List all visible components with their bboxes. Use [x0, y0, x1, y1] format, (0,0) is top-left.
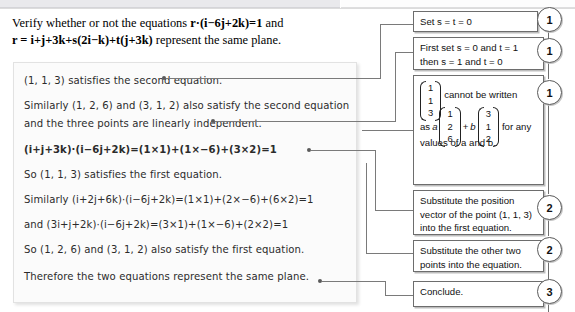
solution-line-6: Similarly (i+2j+6k)·(i−6j+2k)=(1×1)+(2×−…	[24, 194, 314, 205]
page-top-strip-right	[341, 0, 575, 8]
leader-h-6a	[322, 281, 385, 282]
leader-v-2	[395, 52, 396, 122]
question-line1-prefix: Verify whether or not the equations	[12, 16, 190, 30]
leader-h-1b	[380, 24, 413, 25]
leader-h-4b	[375, 210, 413, 211]
page-top-rule	[0, 8, 575, 9]
leader-h-6b	[385, 295, 413, 296]
vec3-row-1: 3	[486, 108, 491, 121]
worked-example-page: Verify whether or not the equations r·(i…	[0, 0, 575, 312]
spine-seg-5	[548, 259, 549, 279]
step-badge-5: 2	[537, 237, 562, 262]
step-badge-2: 1	[537, 38, 562, 63]
leader-v-4	[375, 150, 376, 210]
vec1-row-2: 1	[428, 95, 433, 108]
question-text: Verify whether or not the equations r·(i…	[12, 15, 362, 49]
step-badge-4: 2	[537, 195, 562, 220]
column-vector-113: 1 1 3	[420, 81, 441, 121]
step-badge-1: 1	[537, 7, 562, 32]
step-badge-1-label: 1	[546, 14, 552, 26]
comment-2-line-1: First set s = 0 and t = 1	[420, 41, 537, 55]
comment-box-first-set: First set s = 0 and t = 1 then s = 1 and…	[413, 37, 544, 70]
comment-3-for-any: for any	[502, 120, 531, 134]
comment-3-as-label: as	[420, 120, 430, 134]
comment-1-line-1: Set s = t = 0	[420, 16, 472, 27]
comment-6-line-1: Conclude.	[420, 285, 537, 299]
leader-h-3	[362, 130, 413, 131]
comment-box-substitute-position-vector: Substitute the position vector of the po…	[413, 190, 544, 235]
comment-box-conclude: Conclude.	[413, 281, 544, 307]
step-badge-4-label: 2	[546, 202, 552, 214]
step-badge-3-label: 1	[546, 87, 552, 99]
solution-panel: (1, 1, 3) satisfies the second equation.…	[13, 62, 357, 303]
solution-line-9: Therefore the two equations represent th…	[24, 271, 309, 282]
step-badge-6-label: 3	[546, 286, 552, 298]
solution-line-5: So (1, 1, 3) satisfies the first equatio…	[24, 169, 222, 180]
step-badge-2-label: 1	[546, 45, 552, 57]
spine-seg-3	[548, 102, 549, 194]
step-badge-5-label: 2	[546, 244, 552, 256]
vec1-row-1: 1	[428, 82, 433, 95]
solution-line-3: and the three points are linearly indepe…	[24, 118, 262, 129]
comment-3-coef-b: b	[470, 120, 475, 134]
comment-box-substitute-other-points: Substitute the other two points into the…	[413, 240, 544, 272]
solution-line-8: So (1, 2, 6) and (3, 1, 2) also satisfy …	[24, 244, 304, 255]
comment-box-set-s-t: Set s = t = 0	[413, 11, 538, 32]
question-line2-suffix: represent the same plane.	[153, 33, 281, 47]
step-badge-3: 1	[537, 80, 562, 105]
solution-line-4: (i+j+3k)·(i−6j+2k)=(1×1)+(1×−6)+(3×2)=1	[24, 144, 277, 155]
leader-v-6	[385, 281, 386, 295]
leader-h-2a	[215, 121, 395, 122]
question-line1-suffix: and	[262, 16, 283, 30]
comment-3-cannot-be-written: cannot be written	[444, 88, 517, 102]
comment-5-line-2: points into the equation.	[420, 258, 537, 272]
vec2-row-1: 1	[447, 108, 452, 121]
comment-box-linear-independence: 1 1 3 cannot be written as a 1 2 6 +	[413, 75, 544, 185]
comment-4-line-2: vector of the point (1, 1, 3)	[420, 208, 537, 222]
leader-h-2b	[395, 52, 413, 53]
leader-h-1a	[166, 78, 380, 79]
comment-3-coef-a: a	[432, 120, 437, 134]
comment-3-values-line: values of a and b.	[420, 136, 537, 150]
vec1-row-3: 3	[428, 107, 433, 120]
question-line1-math: r·(i−6j+2k)=1	[190, 16, 262, 30]
leader-h-5b	[366, 253, 413, 254]
comment-4-line-1: Substitute the position	[420, 194, 537, 208]
vec3-row-2: 1	[486, 121, 491, 134]
solution-line-1: (1, 1, 3) satisfies the second equation.	[24, 75, 222, 86]
comment-5-line-1: Substitute the other two	[420, 244, 537, 258]
comment-4-line-3: into the first equation.	[420, 221, 537, 235]
vec2-row-2: 2	[447, 121, 452, 134]
step-badge-6: 3	[537, 279, 562, 304]
question-line2-math: r = i+j+3k+s(2i−k)+t(j+3k)	[12, 33, 153, 47]
page-top-strip-left	[0, 0, 340, 8]
comment-2-line-2: then s = 1 and t = 0	[420, 55, 537, 69]
leader-h-4a	[311, 150, 375, 151]
solution-line-2: Similarly (1, 2, 6) and (3, 1, 2) also s…	[24, 100, 349, 111]
solution-line-7: and (3i+j+2k)·(i−6j+2k)=(3×1)+(1×−6)+(2×…	[24, 219, 288, 230]
comment-3-plus: +	[463, 120, 469, 134]
leader-v-5	[366, 163, 367, 253]
leader-v-1	[380, 24, 381, 79]
